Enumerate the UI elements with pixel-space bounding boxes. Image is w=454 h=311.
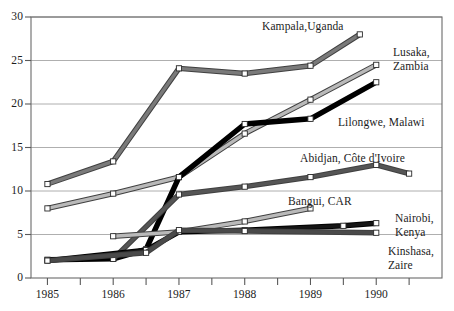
- x-axis-tick-label: 1986: [89, 288, 137, 300]
- series-label: Kampala,Uganda: [262, 20, 344, 34]
- data-point-marker: [111, 159, 116, 164]
- data-point-marker: [143, 250, 148, 255]
- data-point-marker: [176, 66, 181, 71]
- data-point-marker: [242, 219, 247, 224]
- data-point-marker: [242, 121, 247, 126]
- x-axis-tick-label: 1990: [352, 288, 400, 300]
- data-point-marker: [357, 32, 362, 37]
- data-point-marker: [374, 80, 379, 85]
- x-axis-tick-label: 1987: [155, 288, 203, 300]
- data-point-marker: [308, 116, 313, 121]
- series-label: Kinshasa, Zaire: [388, 245, 434, 272]
- data-point-marker: [308, 174, 313, 179]
- data-point-marker: [308, 97, 313, 102]
- data-point-marker: [341, 223, 346, 228]
- y-axis-tick-label: 15: [1, 141, 23, 153]
- series-label: Lusaka, Zambia: [393, 46, 430, 73]
- y-axis-tick-label: 30: [1, 10, 23, 22]
- data-point-marker: [242, 131, 247, 136]
- series-band-fill: [47, 65, 376, 209]
- y-axis-tick-label: 0: [1, 271, 23, 283]
- series-label: Bangui, CAR: [288, 195, 352, 209]
- series-line: [47, 65, 376, 209]
- data-point-marker: [242, 184, 247, 189]
- x-axis-tick-label: 1985: [23, 288, 71, 300]
- data-point-marker: [242, 71, 247, 76]
- y-axis-tick-label: 5: [1, 228, 23, 240]
- y-axis-tick-label: 25: [1, 54, 23, 66]
- series-label: Nairobi, Kenya: [395, 212, 434, 239]
- data-point-marker: [45, 181, 50, 186]
- data-point-marker: [242, 228, 247, 233]
- data-point-marker: [176, 174, 181, 179]
- data-point-marker: [308, 63, 313, 68]
- data-point-marker: [45, 206, 50, 211]
- data-point-marker: [374, 230, 379, 235]
- data-point-marker: [176, 192, 181, 197]
- data-point-marker: [374, 62, 379, 67]
- series-label: Lilongwe, Malawi: [338, 116, 425, 130]
- x-axis-tick-label: 1988: [221, 288, 269, 300]
- series-band-edge: [47, 65, 376, 209]
- x-axis-tick-label: 1989: [286, 288, 334, 300]
- data-point-marker: [45, 258, 50, 263]
- data-point-marker: [407, 171, 412, 176]
- y-axis-tick-label: 10: [1, 184, 23, 196]
- series-label: Abidjan, Côte d'Ivoire: [300, 152, 405, 166]
- chart-container: 051015202530198519861987198819891990Kamp…: [0, 0, 454, 311]
- y-axis-tick-label: 20: [1, 97, 23, 109]
- data-point-marker: [111, 234, 116, 239]
- data-point-marker: [374, 221, 379, 226]
- data-point-marker: [176, 228, 181, 233]
- data-point-marker: [111, 191, 116, 196]
